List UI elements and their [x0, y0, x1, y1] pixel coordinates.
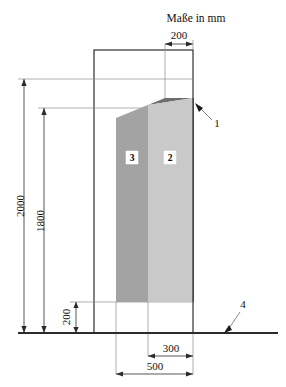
- dim-top-200-label: 200: [171, 29, 188, 41]
- dim-300-arrow-right: [186, 353, 193, 358]
- dimension-bottom-300-group: 300: [148, 342, 193, 359]
- dim-500-label: 500: [147, 360, 164, 372]
- dim-2000-arrow-bottom: [21, 326, 26, 333]
- part-label-2-group: 2: [164, 151, 176, 164]
- callout-4-label: 4: [240, 298, 246, 310]
- dim-bottom-200-label: 200: [60, 308, 72, 325]
- dim-300-label: 300: [163, 342, 180, 354]
- callout-4-group: 4: [224, 298, 246, 333]
- dimension-bottom-200-group: 200: [60, 302, 79, 333]
- units-note-label: Maße in mm: [167, 12, 226, 24]
- dimension-top-200-group: 200: [165, 29, 193, 50]
- part-label-3: 3: [130, 153, 135, 163]
- dim-500-arrow-right: [186, 371, 193, 376]
- dim-1800-arrow-bottom: [41, 326, 46, 333]
- callout-1-group: 1: [195, 103, 220, 129]
- part-label-2: 2: [168, 153, 173, 163]
- callout-1-label: 1: [214, 117, 220, 129]
- dim-500-arrow-left: [116, 371, 123, 376]
- technical-drawing-canvas: Maße in mm 3: [0, 0, 286, 387]
- callout-1-arrowhead: [195, 103, 203, 112]
- dimension-left-1800-group: 1800: [34, 108, 47, 333]
- dim-2000-arrow-top: [21, 79, 26, 86]
- dimension-bottom-500-group: 500: [116, 360, 193, 377]
- dim-2000-label: 2000: [14, 195, 26, 218]
- dim-300-arrow-left: [148, 353, 155, 358]
- dim-bottom-200-arrow-top: [73, 302, 78, 308]
- dim-1800-arrow-top: [41, 108, 46, 115]
- dim-1800-label: 1800: [34, 210, 46, 233]
- region-3-face: [116, 105, 148, 302]
- region-2-face: [148, 98, 193, 302]
- dimension-left-2000-group: 2000: [14, 79, 27, 333]
- part-label-3-group: 3: [126, 151, 138, 164]
- solid-body-group: [116, 98, 193, 302]
- engineering-drawing-svg: Maße in mm 3: [0, 0, 286, 387]
- dim-top-200-arrow-left: [165, 41, 172, 46]
- dim-top-200-arrow-right: [186, 41, 193, 46]
